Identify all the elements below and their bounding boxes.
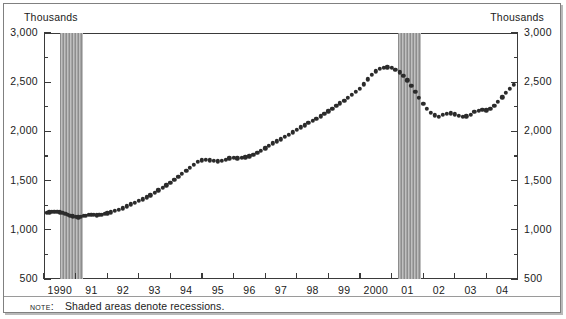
plot-axes-frame [44, 33, 518, 279]
y-minor-tick-right-1750 [514, 155, 518, 156]
y-minor-tick-right-1250 [514, 205, 518, 206]
y-tick-label-right-3000: 3,000 [524, 26, 552, 38]
note-body: Shaded areas denote recessions. [65, 300, 225, 312]
y-minor-tick-left-1250 [44, 205, 48, 206]
y-tick-right-1000 [511, 229, 518, 230]
x-tick-2001 [391, 273, 392, 279]
x-tick-1996 [233, 273, 234, 279]
x-tick-label-2000: 2000 [364, 284, 389, 296]
y-tick-label-right-500: 500 [524, 272, 542, 284]
y-tick-left-500 [44, 278, 51, 279]
y-tick-right-3000 [511, 32, 518, 33]
y-minor-tick-left-750 [44, 254, 48, 255]
x-tick-2002 [423, 273, 424, 279]
x-tick-1993 [138, 273, 139, 279]
y-tick-label-left-3000: 3,000 [10, 26, 38, 38]
y-tick-left-2000 [44, 131, 51, 132]
x-tick-1991 [75, 273, 76, 279]
y-tick-right-2000 [511, 131, 518, 132]
y-tick-label-left-2500: 2,500 [10, 75, 38, 87]
y-minor-tick-left-1750 [44, 155, 48, 156]
x-tick-label-1996: 96 [243, 284, 255, 296]
x-tick-1997 [265, 273, 266, 279]
y-tick-left-1000 [44, 229, 51, 230]
y-tick-label-right-2500: 2,500 [524, 75, 552, 87]
y-tick-label-left-500: 500 [20, 272, 38, 284]
x-tick-1999 [328, 273, 329, 279]
recession-band-1 [60, 33, 84, 279]
x-tick-label-1997: 97 [275, 284, 287, 296]
x-tick-label-1992: 92 [117, 284, 129, 296]
x-tick-label-1990: 1990 [48, 284, 73, 296]
y-minor-tick-right-750 [514, 254, 518, 255]
x-tick-label-1995: 95 [212, 284, 224, 296]
y-minor-tick-left-2250 [44, 106, 48, 107]
x-tick-1992 [107, 273, 108, 279]
y-tick-label-left-1000: 1,000 [10, 223, 38, 235]
x-tick-2000 [359, 273, 360, 279]
x-tick-2003 [454, 273, 455, 279]
y-axis-unit-label-right: Thousands [490, 11, 544, 23]
y-tick-label-left-2000: 2,000 [10, 124, 38, 136]
x-tick-label-1998: 98 [306, 284, 318, 296]
x-tick-label-1994: 94 [180, 284, 192, 296]
y-tick-label-right-2000: 2,000 [524, 124, 552, 136]
plot-area: 5005001,0001,0001,5001,5002,0002,0002,50… [44, 33, 518, 279]
x-tick-label-2002: 02 [433, 284, 445, 296]
x-tick-label-1993: 93 [148, 284, 160, 296]
y-tick-label-right-1000: 1,000 [524, 223, 552, 235]
x-tick-label-2001: 01 [401, 284, 413, 296]
x-tick-1990 [43, 273, 44, 279]
x-tick-label-2003: 03 [464, 284, 476, 296]
y-minor-tick-right-2250 [514, 106, 518, 107]
figure-border-shadow-right [561, 5, 563, 315]
y-minor-tick-right-2750 [514, 57, 518, 58]
y-tick-left-3000 [44, 32, 51, 33]
x-tick-1995 [201, 273, 202, 279]
y-minor-tick-left-2750 [44, 57, 48, 58]
figure-border-shadow-bottom [5, 313, 563, 315]
chart-note: Note:Shaded areas denote recessions. [30, 300, 224, 312]
x-tick-1994 [170, 273, 171, 279]
y-tick-right-1500 [511, 180, 518, 181]
x-tick-label-1999: 99 [338, 284, 350, 296]
recession-band-2 [398, 33, 421, 279]
x-tick-2004 [486, 273, 487, 279]
note-divider [4, 296, 560, 297]
x-tick-label-1991: 91 [85, 284, 97, 296]
y-tick-left-2500 [44, 82, 51, 83]
y-tick-left-1500 [44, 180, 51, 181]
y-axis-unit-label-left: Thousands [24, 11, 78, 23]
figure-container: Thousands Thousands 5005001,0001,0001,50… [0, 0, 566, 319]
y-tick-label-left-1500: 1,500 [10, 174, 38, 186]
x-tick-label-2004: 04 [496, 284, 508, 296]
y-tick-label-right-1500: 1,500 [524, 174, 552, 186]
x-tick-1998 [296, 273, 297, 279]
note-keyword: Note: [30, 300, 54, 312]
y-tick-right-500 [511, 278, 518, 279]
